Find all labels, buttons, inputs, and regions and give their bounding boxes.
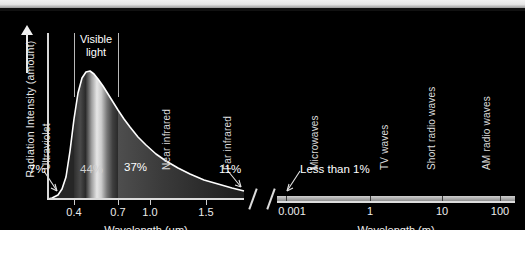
left-x-tick [150, 200, 151, 205]
visible-light-label: Visible light [78, 33, 114, 58]
left-x-tick-label: 1.0 [142, 206, 157, 218]
visible-band-right-guide [118, 33, 119, 97]
plot-area: Radiation Intensity (amount) Visible lig… [0, 11, 525, 230]
band-label-tv-waves: TV waves [379, 124, 390, 170]
right-x-axis-line [277, 201, 515, 203]
right-x-tick [500, 196, 501, 201]
callout-44-percent: 44% [80, 163, 103, 175]
visible-light-label-line2: light [86, 46, 106, 58]
caption-strip: The electromagnetic spectrum and some of… [0, 230, 525, 257]
left-x-tick [206, 200, 207, 205]
left-x-tick-label: 0.4 [66, 206, 81, 218]
y-axis-line [47, 33, 49, 199]
visible-band-left-guide [74, 33, 75, 97]
visible-light-label-line1: Visible [80, 33, 112, 45]
right-x-tick-label: 100 [491, 205, 509, 217]
callout-11-percent: 11% [219, 163, 241, 175]
callout-less-than-1-percent: Less than 1% [300, 163, 370, 175]
left-x-tick [118, 200, 119, 205]
band-label-far-infrared: Far infrared [222, 116, 233, 170]
right-x-tick-label: 0.001 [278, 205, 306, 217]
top-highlight-strip [0, 0, 525, 8]
callout-37-percent: 37% [124, 161, 147, 173]
band-label-near-infrared: Near infrared [161, 109, 172, 170]
band-label-microwaves: Microwaves [309, 115, 320, 170]
left-x-tick-label: 0.7 [110, 206, 125, 218]
right-x-tick-label: 1 [367, 205, 373, 217]
radiation-spectrum-figure: Radiation Intensity (amount) Visible lig… [0, 0, 525, 257]
left-x-tick [74, 200, 75, 205]
left-x-axis-line [47, 198, 244, 200]
right-x-tick [286, 196, 287, 201]
right-x-tick [442, 196, 443, 201]
band-label-am-radio-waves: AM radio waves [481, 96, 492, 170]
right-x-tick-label: 10 [436, 205, 448, 217]
left-x-tick-label: 1.5 [198, 206, 213, 218]
band-label-short-radio-waves: Short radio waves [426, 87, 437, 170]
callout-7-percent: 7% [29, 163, 46, 175]
right-x-tick [370, 196, 371, 201]
